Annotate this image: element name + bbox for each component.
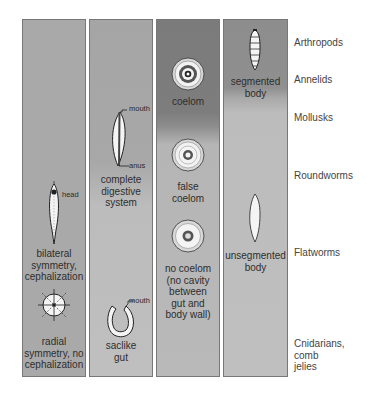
head-callout: head — [62, 190, 79, 199]
label-line: unsegmented — [223, 250, 288, 262]
label-line: cephalization — [22, 271, 86, 283]
false-coelom-label: false coelom — [156, 181, 220, 204]
group-label-roundworms: Roundworms — [294, 170, 353, 182]
label-line: no coelom — [156, 263, 220, 275]
group-label-mollusks: Mollusks — [294, 112, 333, 124]
label-line: coelom — [156, 193, 220, 205]
anus-callout: anus — [129, 161, 145, 170]
saclike-gut-label: saclike gut — [89, 340, 153, 363]
label-line: Cnidarians, — [294, 338, 345, 350]
group-label-flatworms: Flatworms — [294, 247, 340, 259]
label-line: false — [156, 181, 220, 193]
label-line: symmetry, — [22, 260, 86, 272]
label-line: between — [156, 286, 220, 298]
coelom-label: coelom — [156, 96, 220, 108]
group-label-arthropods: Arthropods — [294, 37, 343, 49]
label-line: coelom — [156, 96, 220, 108]
label-line: body wall) — [156, 309, 220, 321]
label-line: body — [223, 88, 288, 100]
label-line: (no cavity — [156, 275, 220, 287]
label-line: body — [223, 262, 288, 274]
no-coelom-label: no coelom (no cavity between gut and bod… — [156, 263, 220, 321]
segmented-body-label: segmented body — [223, 76, 288, 99]
label-line: gut and — [156, 298, 220, 310]
no-coelom-cross-section-icon — [171, 219, 205, 253]
group-label-cnidarians: Cnidarians, comb jelies — [294, 338, 345, 373]
false-coelom-cross-section-icon — [171, 138, 205, 172]
label-line: digestive — [89, 186, 153, 198]
label-line: cephalization — [22, 359, 86, 371]
unsegmented-body-icon — [246, 192, 264, 244]
bilateral-symmetry-label: bilateral symmetry, cephalization — [22, 248, 86, 283]
unsegmented-body-label: unsegmented body — [223, 250, 288, 273]
saclike-gut-icon — [104, 300, 150, 340]
complete-digestive-label: complete digestive system — [89, 174, 153, 209]
label-line: jelies — [294, 361, 345, 373]
label-line: complete — [89, 174, 153, 186]
segmented-body-icon — [246, 28, 264, 72]
label-line: segmented — [223, 76, 288, 88]
group-label-annelids: Annelids — [294, 74, 332, 86]
label-line: saclike — [89, 340, 153, 352]
label-line: radial — [22, 336, 86, 348]
mouth-callout-saclike: mouth — [129, 296, 150, 305]
mouth-callout: mouth — [129, 104, 150, 113]
radial-symmetry-icon — [36, 287, 72, 323]
coelom-cross-section-icon — [171, 57, 205, 91]
radial-symmetry-label: radial symmetry, no cephalization — [22, 336, 86, 371]
label-line: symmetry, no — [22, 348, 86, 360]
label-line: system — [89, 197, 153, 209]
label-line: comb — [294, 350, 345, 362]
label-line: gut — [89, 352, 153, 364]
label-line: bilateral — [22, 248, 86, 260]
